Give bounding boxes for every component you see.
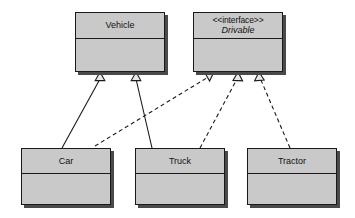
class-box-vehicle[interactable]: Vehicle — [75, 12, 165, 72]
class-name-label: Tractor — [278, 156, 306, 166]
class-attributes-compartment — [22, 174, 110, 205]
class-name-label: Truck — [169, 156, 191, 166]
relationship-tractor-implements-drivable — [255, 72, 290, 148]
stereotype-label: <<interface>> — [212, 16, 263, 26]
realization-line — [95, 78, 208, 147]
hollow-triangle-arrowhead — [95, 72, 105, 81]
hollow-triangle-arrowhead — [131, 72, 141, 81]
class-name-compartment: Truck — [136, 149, 224, 174]
generalization-line — [62, 79, 100, 148]
class-box-truck[interactable]: Truck — [135, 148, 225, 205]
uml-class-diagram: Vehicle <<interface>> Drivable Car Truck… — [0, 0, 355, 218]
class-name-label: Drivable — [221, 25, 254, 35]
realization-line — [261, 79, 291, 148]
hollow-triangle-arrowhead — [255, 72, 265, 81]
class-name-compartment: Car — [22, 149, 110, 174]
relationship-car-extends-vehicle — [62, 72, 105, 148]
hollow-triangle-arrowhead — [205, 72, 214, 81]
class-name-label: Car — [59, 156, 74, 166]
class-box-tractor[interactable]: Tractor — [247, 148, 337, 205]
class-attributes-compartment — [136, 174, 224, 205]
generalization-line — [136, 79, 152, 148]
class-name-compartment: Tractor — [248, 149, 336, 174]
relationship-truck-extends-vehicle — [131, 72, 152, 148]
class-box-car[interactable]: Car — [21, 148, 111, 205]
relationship-car-implements-drivable — [95, 72, 214, 146]
class-name-label: Vehicle — [105, 20, 134, 30]
relationship-truck-implements-drivable — [200, 72, 243, 148]
class-attributes-compartment — [194, 39, 282, 72]
class-name-compartment: <<interface>> Drivable — [194, 13, 282, 39]
class-attributes-compartment — [248, 174, 336, 205]
hollow-triangle-arrowhead — [233, 72, 243, 81]
realization-line — [200, 79, 237, 148]
class-box-drivable[interactable]: <<interface>> Drivable — [193, 12, 283, 72]
class-name-compartment: Vehicle — [76, 13, 164, 39]
class-attributes-compartment — [76, 39, 164, 72]
